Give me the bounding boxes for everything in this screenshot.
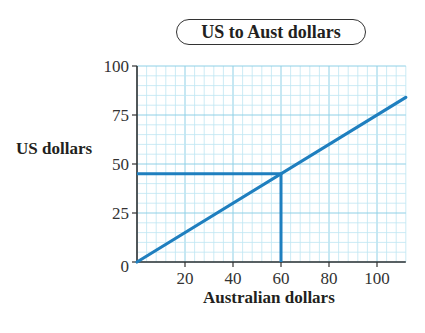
x-tick-label: 40 [225,269,242,288]
x-tick-label: 100 [364,269,390,288]
x-tick-label: 80 [321,269,338,288]
y-tick-label: 75 [112,106,129,125]
y-tick-label: 0 [121,257,130,276]
chart-title: US to Aust dollars [176,19,366,45]
y-tick-label: 100 [104,57,130,76]
x-axis-label: Australian dollars [203,288,335,308]
y-axis-label: US dollars [16,139,92,159]
y-tick-label: 25 [112,204,129,223]
y-tick-label: 50 [112,155,129,174]
x-tick-label: 60 [273,269,290,288]
x-tick-label: 20 [177,269,194,288]
chart-plot: 025507510020406080100 [0,0,425,333]
